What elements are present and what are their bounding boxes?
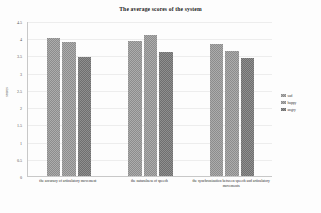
y-tick-label: 3 bbox=[20, 71, 22, 76]
bar-group bbox=[191, 22, 273, 176]
legend-swatch-icon bbox=[281, 108, 286, 111]
legend-label: angry bbox=[288, 108, 296, 112]
bars-layer bbox=[28, 22, 272, 176]
bar-happy-0 bbox=[62, 42, 76, 176]
x-axis-category-labels: the accuracy of articulatory movementthe… bbox=[27, 179, 272, 205]
chart-figure: The average scores of the system scores … bbox=[0, 0, 321, 213]
bar-group bbox=[28, 22, 110, 176]
legend-label: sad bbox=[288, 94, 293, 98]
x-category-label: the synchronization between speech and a… bbox=[184, 179, 278, 190]
legend-item-happy[interactable]: happy bbox=[281, 99, 319, 106]
y-tick-label: 4 bbox=[20, 37, 22, 42]
y-tick-label: 0.5 bbox=[17, 157, 22, 162]
chart-title: The average scores of the system bbox=[0, 6, 321, 12]
x-category-label: the accuracy of articulatory movement bbox=[21, 179, 115, 184]
legend-swatch-icon bbox=[281, 101, 286, 104]
legend-swatch-icon bbox=[281, 94, 286, 97]
bar-sad-1 bbox=[128, 41, 142, 176]
y-tick-label: 2 bbox=[20, 106, 22, 111]
bar-angry-0 bbox=[78, 57, 92, 176]
x-category-label: the naturalness of speech bbox=[103, 179, 197, 184]
bar-happy-2 bbox=[225, 51, 239, 176]
legend-item-angry[interactable]: angry bbox=[281, 106, 319, 113]
bar-angry-1 bbox=[159, 52, 173, 176]
y-axis-tick-labels: 00.511.522.533.544.5 bbox=[0, 22, 25, 177]
plot-area bbox=[27, 22, 272, 177]
legend-item-sad[interactable]: sad bbox=[281, 92, 319, 99]
y-tick-label: 2.5 bbox=[17, 88, 22, 93]
y-tick-label: 4.5 bbox=[17, 20, 22, 25]
bar-group bbox=[110, 22, 192, 176]
y-tick-label: 1 bbox=[20, 140, 22, 145]
bar-angry-2 bbox=[241, 58, 255, 176]
y-tick-label: 3.5 bbox=[17, 54, 22, 59]
bar-sad-0 bbox=[47, 38, 61, 176]
legend-label: happy bbox=[288, 101, 297, 105]
y-tick-label: 1.5 bbox=[17, 123, 22, 128]
bar-sad-2 bbox=[210, 44, 224, 176]
chart-legend: sadhappyangry bbox=[281, 92, 319, 113]
bar-happy-1 bbox=[144, 35, 158, 176]
